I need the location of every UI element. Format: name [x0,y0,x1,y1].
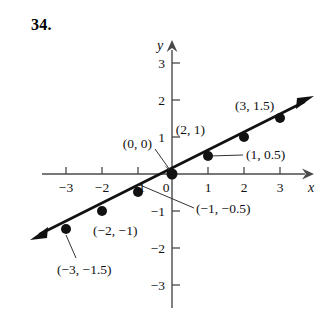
leader-line-neg3 [66,235,76,258]
y-tick-label-three: 3 [158,56,165,71]
coordinate-plot: −3 −2 −1 0 1 2 3 3 2 1 −1 −2 −3 x y [0,0,326,312]
point-label-one: (1, 0.5) [246,147,285,162]
y-tick-label-one: 1 [158,130,165,145]
x-tick-label-zero: 0 [163,180,170,195]
point-labels: (3, 1.5) (2, 1) (1, 0.5) (0, 0) (−1, −0.… [57,98,285,277]
x-tick-label-one: 1 [205,180,212,195]
x-axis-label: x [307,180,315,195]
data-point-neg2[interactable] [97,206,107,216]
leader-line-one [209,155,243,156]
point-label-two: (2, 1) [176,122,205,137]
y-axis-label: y [155,38,164,53]
data-point-three[interactable] [275,113,285,123]
line-arrowhead-left [30,227,48,240]
x-tick-label-neg3: −3 [59,180,74,195]
point-label-neg2: (−2, −1) [93,223,137,238]
x-tick-label-three: 3 [277,180,284,195]
data-point-one[interactable] [203,151,213,161]
point-label-neg1: (−1, −0.5) [196,201,251,216]
x-tick-label-two: 2 [241,180,248,195]
y-tick-label-neg2: −2 [151,241,165,256]
figure-container: 34. [0,0,326,312]
data-point-two[interactable] [239,132,249,142]
x-tick-label-neg2: −2 [95,180,109,195]
point-label-origin: (0, 0) [123,136,152,151]
x-tick-labels: −3 −2 −1 0 1 2 3 [59,180,284,195]
y-tick-label-neg1: −1 [151,204,165,219]
y-tick-label-two: 2 [158,93,165,108]
y-tick-label-neg3: −3 [151,278,166,293]
data-point-origin[interactable] [167,169,178,180]
point-label-neg3: (−3, −1.5) [57,262,112,277]
point-label-three: (3, 1.5) [235,98,274,113]
line-arrowhead-right [296,96,314,109]
data-point-neg3[interactable] [61,224,71,234]
leader-line-origin [155,149,170,170]
data-point-neg1[interactable] [133,187,143,197]
